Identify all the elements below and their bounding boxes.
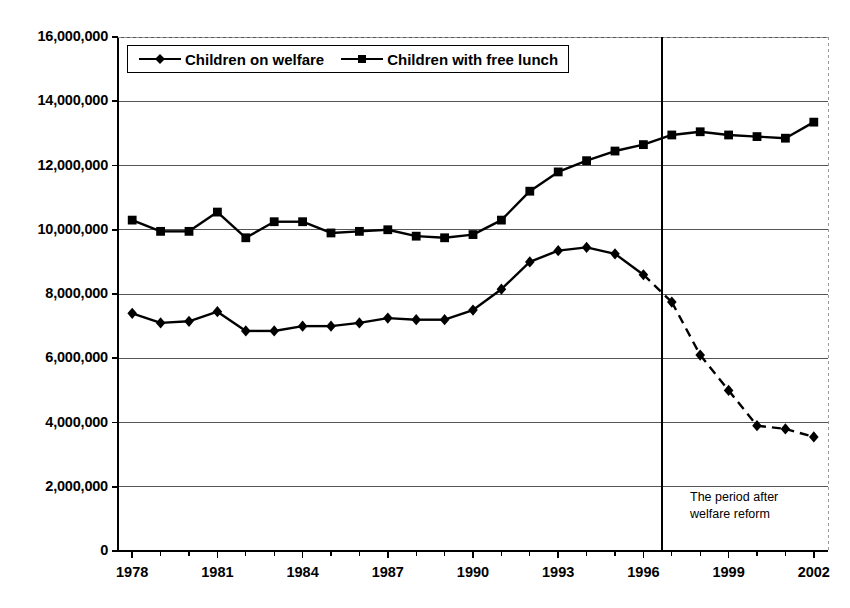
series-layer <box>127 118 818 443</box>
x-axis-tick-label: 1990 <box>433 564 513 580</box>
legend-label: Children with free lunch <box>387 51 558 68</box>
x-axis-tick-label: 1993 <box>518 564 598 580</box>
x-axis-tick-label: 1978 <box>92 564 172 580</box>
y-axis-tick-label: 8,000,000 <box>45 285 108 301</box>
y-axis-tick-label: 14,000,000 <box>37 92 108 108</box>
x-axis-tick-label: 1984 <box>263 564 343 580</box>
y-axis-tick-label: 6,000,000 <box>45 349 108 365</box>
axis-ticks <box>112 37 814 558</box>
chart-legend: Children on welfare Children with free l… <box>127 45 569 73</box>
chart-container: 02,000,0004,000,0006,000,0008,000,00010,… <box>0 0 850 608</box>
welfare-reform-annotation: The period after welfare reform <box>690 489 778 523</box>
x-axis-tick-label: 1999 <box>689 564 769 580</box>
y-axis-tick-label: 16,000,000 <box>37 28 108 44</box>
y-axis-tick-label: 2,000,000 <box>45 478 108 494</box>
y-axis-tick-label: 4,000,000 <box>45 414 108 430</box>
y-axis-tick-label: 0 <box>100 542 108 558</box>
x-axis-tick-label: 1987 <box>348 564 428 580</box>
x-axis-tick-label: 1996 <box>603 564 683 580</box>
y-axis-tick-label: 12,000,000 <box>37 157 108 173</box>
x-axis-tick-label: 2002 <box>774 564 850 580</box>
legend-item-children-with-free-lunch[interactable]: Children with free lunch <box>340 51 558 68</box>
gridlines <box>118 37 828 487</box>
legend-square-icon <box>340 52 384 66</box>
y-axis-tick-label: 10,000,000 <box>37 221 108 237</box>
legend-item-children-on-welfare[interactable]: Children on welfare <box>138 51 324 68</box>
legend-diamond-icon <box>138 52 182 66</box>
legend-label: Children on welfare <box>185 51 324 68</box>
x-axis-tick-label: 1981 <box>177 564 257 580</box>
